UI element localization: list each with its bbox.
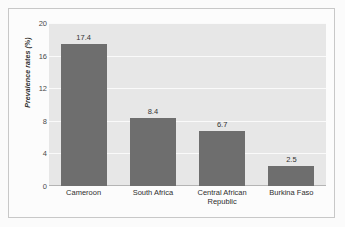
category-label: Cameroon	[49, 188, 118, 197]
bar-value-label: 8.4	[148, 107, 158, 116]
bar[interactable]	[199, 131, 245, 186]
y-axis-tick-label: 12	[21, 84, 47, 93]
bars-layer: 17.48.46.72.5	[49, 23, 326, 186]
bar-value-label: 17.4	[76, 33, 91, 42]
bar-group[interactable]: 17.4	[49, 23, 118, 186]
x-axis-category-labels: CameroonSouth AfricaCentral AfricanRepub…	[49, 188, 326, 216]
y-axis-tick-label: 8	[21, 116, 47, 125]
y-axis-tick-labels: 048121620	[21, 23, 47, 186]
bar-value-label: 6.7	[217, 120, 227, 129]
category-label-line: Republic	[188, 197, 257, 206]
y-axis-tick-label: 20	[21, 19, 47, 28]
chart-figure-frame: Prevalence rates (%) 048121620 17.48.46.…	[8, 8, 335, 218]
bar-group[interactable]: 8.4	[118, 23, 187, 186]
category-label-line: Central African	[188, 188, 257, 197]
category-label-line: South Africa	[118, 188, 187, 197]
y-axis-tick-label: 0	[21, 182, 47, 191]
category-label: Burkina Faso	[257, 188, 326, 197]
bar[interactable]	[130, 118, 176, 186]
bar-value-label: 2.5	[286, 155, 296, 164]
bar-group[interactable]: 2.5	[257, 23, 326, 186]
category-label-line: Burkina Faso	[257, 188, 326, 197]
bar-group[interactable]: 6.7	[188, 23, 257, 186]
category-label: South Africa	[118, 188, 187, 197]
category-label: Central AfricanRepublic	[188, 188, 257, 206]
bar[interactable]	[268, 166, 314, 186]
y-axis-tick-label: 4	[21, 149, 47, 158]
category-label-line: Cameroon	[49, 188, 118, 197]
y-axis-tick-label: 16	[21, 51, 47, 60]
bar[interactable]	[61, 44, 107, 186]
